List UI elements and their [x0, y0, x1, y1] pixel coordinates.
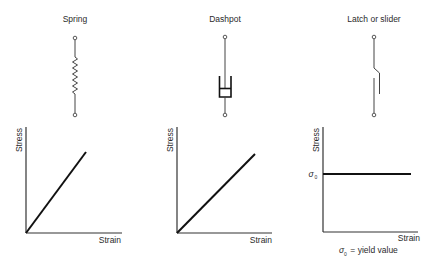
latch-element: Latch or slider: [347, 14, 401, 117]
spring-x-label: Strain: [99, 235, 121, 245]
spring-top-node: [73, 36, 77, 40]
spring-response-line: [26, 152, 86, 233]
dashpot-stress-strain-chart: Stress Strain: [165, 127, 272, 245]
spring-y-label: Stress: [14, 128, 24, 152]
spring-bottom-node: [73, 113, 77, 117]
dashpot-x-label: Strain: [250, 235, 272, 245]
dashpot-top-node: [223, 35, 227, 39]
dashpot-bottom-node: [223, 113, 227, 117]
dashpot-element: Dashpot: [209, 14, 241, 117]
latch-x-label: Strain: [398, 233, 420, 243]
latch-bottom-node: [372, 113, 376, 117]
yield-tick-subscript: 0: [315, 174, 318, 180]
dashpot-title: Dashpot: [209, 14, 241, 24]
spring-coil-icon: [73, 57, 78, 94]
dashpot-y-label: Stress: [165, 128, 175, 152]
latch-upper-arm-icon: [374, 39, 380, 94]
rheology-elements-diagram: Spring Dashpot Latch or slider Stress St…: [0, 0, 433, 269]
footnote-yield-value: = yield value: [348, 245, 398, 255]
spring-stress-strain-chart: Stress Strain: [14, 127, 122, 245]
latch-y-label: Stress: [311, 128, 321, 152]
latch-top-node: [372, 35, 376, 39]
latch-title: Latch or slider: [347, 14, 401, 24]
dashpot-response-line: [177, 154, 255, 233]
spring-element: Spring: [63, 14, 88, 117]
yield-tick-symbol: σ: [308, 169, 314, 179]
spring-title: Spring: [63, 14, 88, 24]
latch-stress-strain-chart: Stress σ 0 Strain σ 0 = yield value: [308, 127, 420, 257]
footnote-subscript: 0: [344, 251, 347, 257]
